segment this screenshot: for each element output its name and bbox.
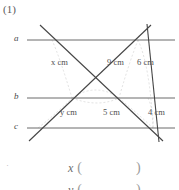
row-bullet-marker: · [6,160,9,170]
transversal-down-right [40,25,163,141]
line-label-a: a [14,34,19,43]
line-label-c: c [14,122,18,131]
answer-open-paren-y: ( [77,182,82,190]
answer-close-paren-y: ) [136,182,141,190]
line-label-b: b [14,92,19,101]
worksheet-figure-page: (1) a b c x cm 9 cm 6 cm y cm 5 cm 4 cm … [0,0,179,190]
measure-label-4: 4 cm [148,108,165,117]
answer-row-y: y ( ) [68,182,141,190]
transversal-lines-group [29,24,163,142]
answer-variable-y: y [68,183,73,190]
dashed-arc-9 [119,40,138,98]
measure-label-5: 5 cm [103,108,120,117]
answer-variable-x: x [68,161,73,176]
answer-close-paren-x: ) [136,160,141,176]
measure-label-y: y cm [60,108,77,117]
answer-row-x: x ( ) [68,160,141,176]
measure-label-9: 9 cm [107,58,124,67]
measure-label-x: x cm [51,58,68,67]
problem-number: (1) [3,4,16,15]
dashed-arc-bottom-b [72,98,119,103]
dashed-arc-x [52,40,72,98]
answer-open-paren-x: ( [77,160,82,176]
transversal-up-right [29,25,151,141]
measure-label-6: 6 cm [137,58,154,67]
